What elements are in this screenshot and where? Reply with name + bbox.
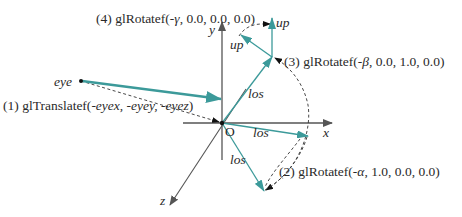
eye-point bbox=[79, 79, 83, 83]
step-func: glRotatef( bbox=[303, 54, 358, 69]
step-func: glRotatef( bbox=[298, 164, 353, 179]
up-label-tilted: up bbox=[230, 38, 244, 52]
rotate-alpha-path-inner bbox=[265, 139, 300, 187]
origin-point bbox=[220, 121, 224, 125]
step-3-label: (3) glRotatef(-β, 0.0, 1.0, 0.0) bbox=[284, 55, 444, 69]
los-label-1: los bbox=[248, 87, 264, 101]
step-num: (4) bbox=[96, 11, 112, 26]
step-args: -eyex, -eyey, -eyez bbox=[91, 98, 188, 113]
origin-label: O bbox=[225, 125, 235, 139]
step-num: (3) bbox=[284, 54, 300, 69]
step-close: ) bbox=[189, 98, 194, 113]
step-num: (1) bbox=[3, 98, 19, 113]
step-rest: , 0.0, 0.0, 0.0) bbox=[180, 11, 255, 26]
step-2-label: (2) glRotatef(-α, 1.0, 0.0, 0.0) bbox=[279, 165, 440, 179]
los-label-2: los bbox=[253, 126, 269, 140]
step-rest: , 1.0, 0.0, 0.0) bbox=[364, 164, 439, 179]
x-axis-label: x bbox=[323, 126, 329, 140]
step-func: glTranslatef( bbox=[22, 98, 91, 113]
eye-label: eye bbox=[54, 75, 72, 89]
up-vector-tilted bbox=[241, 35, 272, 57]
step-func: glRotatef( bbox=[115, 11, 170, 26]
step-angle: -β bbox=[358, 54, 369, 69]
step-angle: -γ bbox=[170, 11, 180, 26]
los-vector-up-right bbox=[222, 57, 272, 123]
up-label-vertical: up bbox=[276, 16, 290, 30]
step-num: (2) bbox=[279, 164, 295, 179]
los-label-3: los bbox=[230, 153, 246, 167]
step-angle: -α bbox=[353, 164, 365, 179]
step-4-label: (4) glRotatef(-γ, 0.0, 0.0, 0.0) bbox=[96, 12, 255, 26]
eye-to-axis-vector bbox=[82, 81, 221, 99]
step-rest: , 0.0, 1.0, 0.0) bbox=[369, 54, 444, 69]
step-1-label: (1) glTranslatef(-eyex, -eyey, -eyez) bbox=[3, 99, 193, 113]
z-axis-label: z bbox=[160, 194, 165, 208]
